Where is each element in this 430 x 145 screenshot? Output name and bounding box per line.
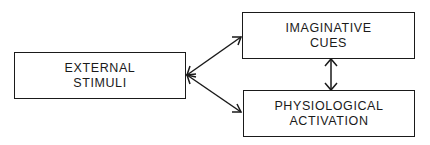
node-label-line: STIMULI <box>73 76 127 91</box>
node-imaginative-cues: IMAGINATIVE CUES <box>242 12 415 59</box>
node-label-line: IMAGINATIVE <box>285 21 371 36</box>
node-label-line: EXTERNAL <box>65 61 136 76</box>
arrowhead-physiological <box>232 104 241 112</box>
node-label-line: PHYSIOLOGICAL <box>274 99 383 114</box>
node-physiological-activation: PHYSIOLOGICAL ACTIVATION <box>243 90 415 137</box>
node-label-line: ACTIVATION <box>289 114 368 129</box>
node-external-stimuli: EXTERNAL STIMULI <box>14 52 186 99</box>
edge-external-physiological <box>187 75 241 112</box>
node-label-line: CUES <box>310 36 347 51</box>
edge-external-imaginative <box>187 37 241 75</box>
